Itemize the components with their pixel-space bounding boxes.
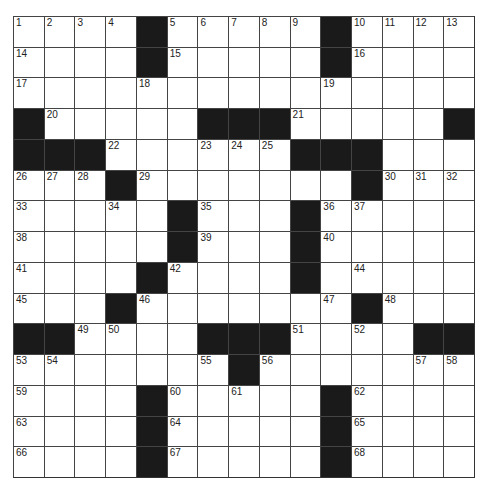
grid-cell[interactable]: 17 (13, 77, 44, 108)
grid-cell[interactable] (197, 262, 228, 293)
grid-cell[interactable] (74, 354, 105, 385)
grid-cell[interactable]: 20 (44, 108, 75, 139)
grid-cell[interactable] (259, 77, 290, 108)
grid-cell[interactable] (413, 231, 444, 262)
grid-cell[interactable] (105, 262, 136, 293)
grid-cell[interactable]: 41 (13, 262, 44, 293)
grid-cell[interactable] (44, 200, 75, 231)
grid-cell[interactable] (105, 108, 136, 139)
grid-cell[interactable] (382, 139, 413, 170)
grid-cell[interactable] (443, 446, 474, 477)
grid-cell[interactable] (320, 170, 351, 201)
grid-cell[interactable] (136, 323, 167, 354)
grid-cell[interactable]: 12 (413, 16, 444, 47)
grid-cell[interactable] (259, 446, 290, 477)
grid-cell[interactable] (74, 200, 105, 231)
grid-cell[interactable]: 68 (351, 446, 382, 477)
grid-cell[interactable] (44, 385, 75, 416)
grid-cell[interactable] (382, 77, 413, 108)
grid-cell[interactable] (259, 385, 290, 416)
grid-cell[interactable] (105, 47, 136, 78)
grid-cell[interactable] (413, 262, 444, 293)
grid-cell[interactable] (44, 47, 75, 78)
grid-cell[interactable] (320, 262, 351, 293)
grid-cell[interactable]: 2 (44, 16, 75, 47)
grid-cell[interactable] (44, 77, 75, 108)
grid-cell[interactable]: 24 (228, 139, 259, 170)
grid-cell[interactable] (259, 170, 290, 201)
grid-cell[interactable] (351, 108, 382, 139)
grid-cell[interactable] (413, 108, 444, 139)
grid-cell[interactable]: 30 (382, 170, 413, 201)
grid-cell[interactable] (382, 354, 413, 385)
grid-cell[interactable] (413, 139, 444, 170)
grid-cell[interactable]: 40 (320, 231, 351, 262)
grid-cell[interactable]: 32 (443, 170, 474, 201)
grid-cell[interactable]: 19 (320, 77, 351, 108)
grid-cell[interactable] (167, 170, 198, 201)
grid-cell[interactable]: 13 (443, 16, 474, 47)
grid-cell[interactable]: 62 (351, 385, 382, 416)
grid-cell[interactable] (228, 231, 259, 262)
grid-cell[interactable]: 4 (105, 16, 136, 47)
grid-cell[interactable] (228, 416, 259, 447)
grid-cell[interactable]: 53 (13, 354, 44, 385)
grid-cell[interactable]: 57 (413, 354, 444, 385)
grid-cell[interactable] (167, 139, 198, 170)
grid-cell[interactable] (74, 293, 105, 324)
grid-cell[interactable]: 54 (44, 354, 75, 385)
grid-cell[interactable] (259, 293, 290, 324)
grid-cell[interactable] (44, 293, 75, 324)
grid-cell[interactable] (197, 293, 228, 324)
grid-cell[interactable]: 48 (382, 293, 413, 324)
grid-cell[interactable] (443, 231, 474, 262)
grid-cell[interactable]: 15 (167, 47, 198, 78)
grid-cell[interactable] (105, 231, 136, 262)
grid-cell[interactable]: 67 (167, 446, 198, 477)
grid-cell[interactable]: 37 (351, 200, 382, 231)
grid-cell[interactable] (167, 323, 198, 354)
grid-cell[interactable]: 7 (228, 16, 259, 47)
grid-cell[interactable]: 29 (136, 170, 167, 201)
grid-cell[interactable]: 22 (105, 139, 136, 170)
grid-cell[interactable] (290, 354, 321, 385)
grid-cell[interactable] (105, 77, 136, 108)
grid-cell[interactable] (413, 446, 444, 477)
grid-cell[interactable] (351, 231, 382, 262)
grid-cell[interactable] (413, 200, 444, 231)
grid-cell[interactable] (443, 139, 474, 170)
grid-cell[interactable]: 61 (228, 385, 259, 416)
grid-cell[interactable] (228, 262, 259, 293)
grid-cell[interactable]: 38 (13, 231, 44, 262)
grid-cell[interactable] (443, 293, 474, 324)
grid-cell[interactable] (443, 385, 474, 416)
grid-cell[interactable]: 36 (320, 200, 351, 231)
grid-cell[interactable] (320, 323, 351, 354)
grid-cell[interactable]: 6 (197, 16, 228, 47)
grid-cell[interactable] (167, 108, 198, 139)
grid-cell[interactable]: 50 (105, 323, 136, 354)
grid-cell[interactable] (136, 200, 167, 231)
grid-cell[interactable] (382, 47, 413, 78)
grid-cell[interactable] (382, 323, 413, 354)
grid-cell[interactable]: 9 (290, 16, 321, 47)
grid-cell[interactable]: 49 (74, 323, 105, 354)
grid-cell[interactable] (44, 416, 75, 447)
grid-cell[interactable]: 35 (197, 200, 228, 231)
grid-cell[interactable]: 52 (351, 323, 382, 354)
grid-cell[interactable] (382, 231, 413, 262)
grid-cell[interactable] (74, 446, 105, 477)
grid-cell[interactable] (382, 108, 413, 139)
grid-cell[interactable] (228, 47, 259, 78)
grid-cell[interactable] (44, 231, 75, 262)
grid-cell[interactable]: 25 (259, 139, 290, 170)
grid-cell[interactable]: 42 (167, 262, 198, 293)
grid-cell[interactable] (44, 446, 75, 477)
grid-cell[interactable] (228, 200, 259, 231)
grid-cell[interactable] (105, 446, 136, 477)
grid-cell[interactable] (259, 47, 290, 78)
grid-cell[interactable] (74, 77, 105, 108)
grid-cell[interactable]: 16 (351, 47, 382, 78)
grid-cell[interactable]: 39 (197, 231, 228, 262)
grid-cell[interactable] (74, 108, 105, 139)
